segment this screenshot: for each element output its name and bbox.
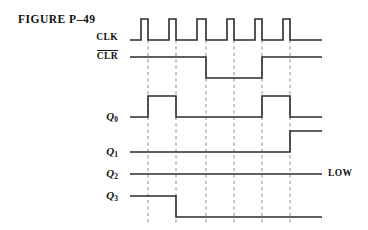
timing-diagram-figure: FIGURE P–49 CLK CLR Q0 Q1 Q2 Q3 LOW	[0, 0, 368, 230]
waveform-canvas	[0, 0, 368, 230]
waveform-clr	[130, 57, 322, 78]
waveform-q3	[130, 196, 322, 217]
waveform-q0	[130, 96, 322, 117]
waveform-clk	[130, 19, 322, 40]
waveform-q1	[130, 131, 322, 152]
waveforms-group	[130, 19, 322, 217]
